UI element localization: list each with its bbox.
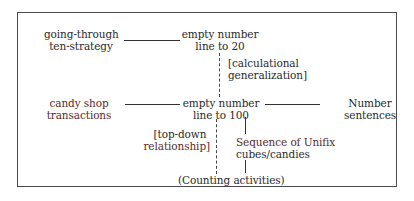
label-top-down-relationship: [top-down relationship] [136,128,210,152]
node-label-line: going-through [44,28,118,40]
node-label-line: ten-strategy [44,40,118,52]
node-label-line: sentences [344,109,396,121]
label-line: [top-down [136,128,210,140]
edge-counting-to-unifix [245,160,246,173]
node-sequence-unifix: Sequence of Unifix cubes/candies [236,136,335,160]
label-calculational-generalization: [calculational generalization] [228,57,307,81]
node-number-sentences: Number sentences [344,97,396,121]
node-counting-activities: (Counting activities) [178,174,282,186]
node-label-line: Number [344,97,396,109]
node-label-line: transactions [46,109,112,121]
node-empty-number-line-20: empty number line to 20 [180,28,260,52]
node-candy-shop-transactions: candy shop transactions [46,97,112,121]
edge-counting-to-enl100-dashed [216,119,217,174]
node-label-line: candy shop [46,97,112,109]
node-label-line: empty number [180,28,260,40]
node-label-line: line to 20 [180,40,260,52]
node-label-line: line to 100 [180,109,262,121]
label-line: relationship] [136,140,210,152]
node-going-through-ten-strategy: going-through ten-strategy [44,28,118,52]
edge-candy-shop-to-enl100 [125,104,180,105]
node-label-line: empty number [180,97,262,109]
edge-enl100-to-number-sentences [265,104,320,105]
edge-going-through-to-enl20 [124,40,180,41]
label-line: [calculational [228,57,307,69]
label-line: generalization] [228,69,307,81]
node-label-line: Sequence of Unifix [236,136,335,148]
node-label-line: cubes/candies [236,148,335,160]
node-label-line: (Counting activities) [178,174,282,186]
node-empty-number-line-100: empty number line to 100 [180,97,262,121]
edge-enl20-to-enl100-dashed [219,53,220,97]
edge-unifix-to-enl100 [245,117,246,134]
